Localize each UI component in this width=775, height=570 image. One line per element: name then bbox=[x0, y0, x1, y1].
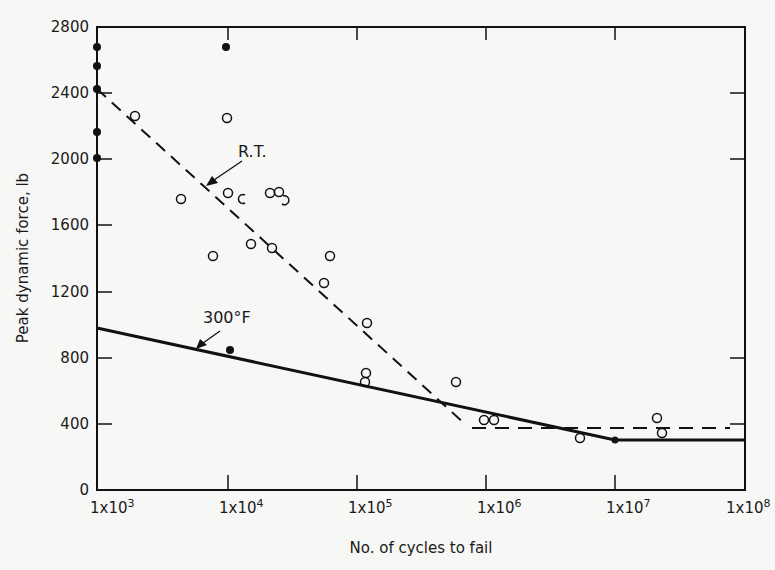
300f-fit-line bbox=[97, 328, 745, 440]
fatigue-chart: 2800 2400 2000 1600 1200 800 400 0 1x103… bbox=[0, 0, 775, 570]
svg-text:400: 400 bbox=[60, 415, 89, 433]
svg-text:1x106: 1x106 bbox=[477, 497, 522, 517]
svg-text:1200: 1200 bbox=[51, 283, 89, 301]
y-axis-title: Peak dynamic force, lb bbox=[14, 173, 32, 343]
svg-text:800: 800 bbox=[60, 349, 89, 367]
x-tick-labels: 1x103 1x104 1x105 1x106 1x107 1x108 bbox=[90, 497, 771, 517]
svg-text:2000: 2000 bbox=[51, 150, 89, 168]
svg-text:1x108: 1x108 bbox=[726, 497, 771, 517]
svg-text:1x104: 1x104 bbox=[219, 497, 264, 517]
svg-text:1600: 1600 bbox=[51, 216, 89, 234]
svg-text:1x103: 1x103 bbox=[90, 497, 135, 517]
plot-frame bbox=[97, 27, 745, 490]
svg-text:R.T.: R.T. bbox=[238, 142, 267, 161]
svg-text:300°F: 300°F bbox=[203, 308, 251, 327]
rt-fit-line bbox=[97, 89, 465, 424]
y-tick-labels: 2800 2400 2000 1600 1200 800 400 0 bbox=[51, 18, 89, 499]
svg-text:2400: 2400 bbox=[51, 84, 89, 102]
x-ticks bbox=[228, 27, 615, 490]
svg-text:1x105: 1x105 bbox=[348, 497, 393, 517]
svg-text:1x107: 1x107 bbox=[606, 497, 651, 517]
300f-annotation: 300°F bbox=[196, 308, 251, 349]
x-axis-title: No. of cycles to fail bbox=[350, 539, 493, 557]
y-ticks bbox=[97, 93, 745, 424]
svg-text:2800: 2800 bbox=[51, 18, 89, 36]
rt-annotation: R.T. bbox=[206, 142, 267, 186]
svg-text:0: 0 bbox=[79, 481, 89, 499]
